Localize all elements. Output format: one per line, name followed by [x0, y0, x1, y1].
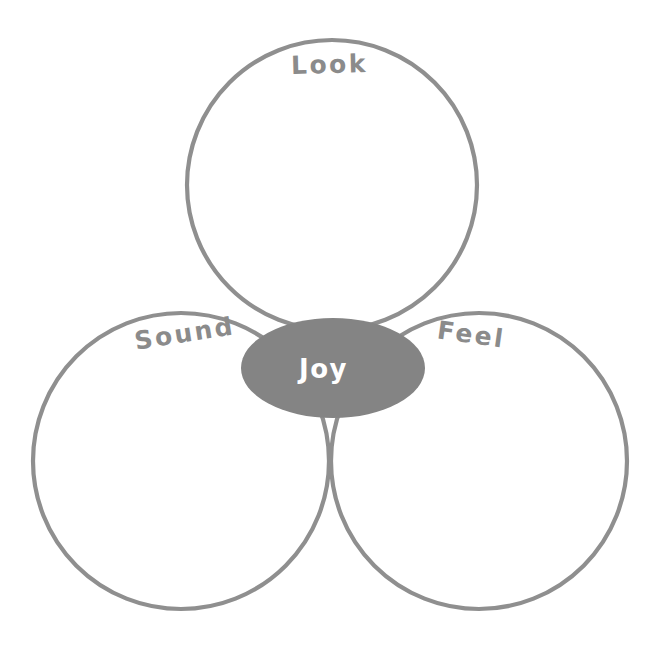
venn-diagram-canvas: Look Sound Feel Joy	[0, 0, 662, 655]
center-label-joy: Joy	[299, 354, 348, 384]
venn-diagram-svg	[0, 0, 662, 655]
circle-look[interactable]	[187, 40, 477, 330]
lobe-label-look: Look	[291, 49, 369, 80]
